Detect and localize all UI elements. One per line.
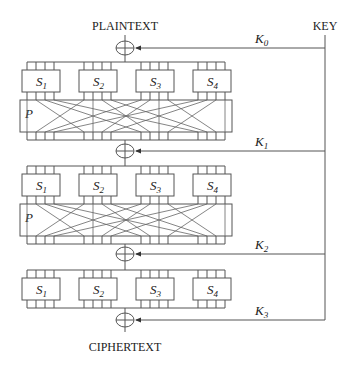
- sbox-row: S1 S2 S3 S4: [22, 62, 231, 100]
- permutation-box: P: [20, 100, 232, 140]
- k0-label: K0: [254, 31, 269, 48]
- xor-k1: K1: [116, 134, 325, 158]
- round-2: S1 S2 S3 S4 P: [20, 166, 232, 244]
- sbox-row: S1 S2 S3 S4: [22, 166, 231, 204]
- k1-label: K1: [254, 134, 268, 151]
- round-1: S1 S2 S3 S4 P: [20, 62, 232, 140]
- spn-diagram: PLAINTEXT KEY CIPHERTEXT K0 K1 K2 K3: [0, 0, 351, 365]
- k3-label: K3: [254, 303, 269, 320]
- permutation-box: P: [20, 204, 232, 244]
- svg-text:P: P: [24, 106, 33, 121]
- ciphertext-label: CIPHERTEXT: [89, 340, 162, 354]
- key-label: KEY: [313, 19, 338, 33]
- svg-text:P: P: [24, 210, 33, 225]
- plaintext-label: PLAINTEXT: [92, 19, 159, 33]
- xor-k0: K0: [116, 31, 325, 55]
- sbox-row: S1 S2 S3 S4: [22, 270, 231, 308]
- round-3: S1 S2 S3 S4: [22, 270, 231, 308]
- k2-label: K2: [254, 237, 269, 254]
- xor-k2: K2: [116, 237, 325, 261]
- xor-k3: K3: [116, 303, 325, 327]
